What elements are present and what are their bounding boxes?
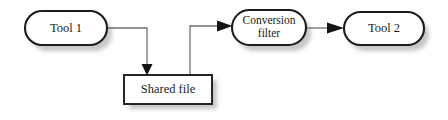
edge-conversion-filter-to-tool2-arrowhead bbox=[327, 23, 344, 34]
tool-1-label: Tool 1 bbox=[50, 21, 82, 35]
tool-2-label: Tool 2 bbox=[368, 21, 400, 35]
edge-shared-file-to-conversion-filter-arrowhead bbox=[217, 21, 233, 32]
node-tool-1[interactable]: Tool 1 bbox=[25, 11, 107, 45]
diagram-canvas: Tool 1 Shared file Conversion filter Too… bbox=[0, 0, 448, 120]
edge-tool1-to-shared-file bbox=[107, 28, 147, 66]
node-tool-2[interactable]: Tool 2 bbox=[344, 12, 424, 45]
conversion-filter-label-line-2: filter bbox=[258, 27, 281, 39]
node-conversion-filter[interactable]: Conversion filter bbox=[232, 10, 306, 45]
edge-tool1-to-shared-file-arrowhead bbox=[142, 64, 153, 76]
edge-shared-file-to-conversion-filter bbox=[190, 26, 219, 75]
conversion-filter-label-line-1: Conversion bbox=[242, 14, 295, 26]
diagram-svg: Tool 1 Shared file Conversion filter Too… bbox=[0, 0, 448, 120]
node-shared-file[interactable]: Shared file bbox=[124, 75, 212, 104]
shared-file-label: Shared file bbox=[141, 82, 196, 96]
